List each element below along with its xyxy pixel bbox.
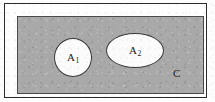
set-label-a1-base: A	[67, 51, 75, 63]
set-label-a2-subscript: 2	[137, 49, 141, 58]
set-label-a1: A1	[67, 52, 79, 63]
set-label-a1-subscript: 1	[75, 56, 79, 65]
set-region-a2: A2	[106, 33, 164, 68]
set-region-a1: A1	[54, 38, 92, 77]
universal-set-label: C	[173, 68, 181, 79]
universal-set-region: A1 A2 C	[17, 16, 204, 94]
set-label-a2: A2	[129, 45, 141, 56]
figure-frame: A1 A2 C	[4, 3, 207, 98]
set-diagram-figure: A1 A2 C	[0, 0, 215, 102]
set-label-a2-base: A	[129, 44, 137, 56]
